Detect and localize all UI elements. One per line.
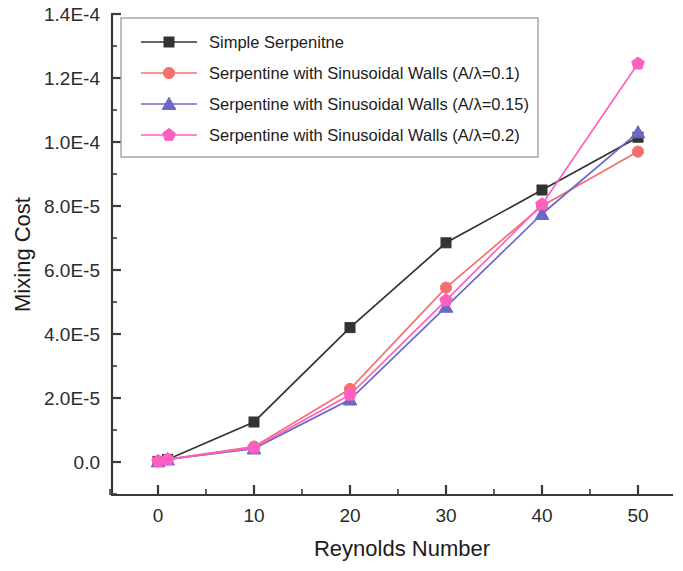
y-tick-label: 6.0E-5: [44, 260, 100, 281]
series-line: [158, 152, 638, 462]
marker-square: [249, 417, 259, 427]
marker-pentagon: [536, 198, 549, 210]
data-point: [441, 238, 451, 248]
marker-pentagon: [632, 57, 645, 69]
y-tick-label: 4.0E-5: [44, 324, 100, 345]
legend-label: Serpentine with Sinusoidal Walls (A/λ=0.…: [209, 64, 520, 82]
y-tick-label: 1.2E-4: [44, 68, 100, 89]
y-axis-title: Mixing Cost: [10, 197, 35, 312]
x-axis-title: Reynolds Number: [314, 536, 490, 561]
y-tick-label: 1.0E-4: [44, 132, 100, 153]
x-tick-label: 40: [531, 505, 552, 526]
legend-marker: [163, 67, 174, 78]
marker-square: [345, 323, 355, 333]
data-point: [249, 417, 259, 427]
series-1: [153, 132, 643, 466]
marker-square: [537, 185, 547, 195]
legend-label: Simple Serpenitne: [209, 33, 344, 51]
data-point: [632, 146, 643, 157]
series-line: [158, 137, 638, 461]
y-tick-label: 2.0E-5: [44, 388, 100, 409]
series-line: [158, 132, 638, 461]
x-tick-label: 30: [435, 505, 456, 526]
chart-canvas: 0.02.0E-54.0E-56.0E-58.0E-51.0E-41.2E-41…: [0, 0, 683, 571]
data-point: [632, 57, 645, 69]
mixing-cost-chart: 0.02.0E-54.0E-56.0E-58.0E-51.0E-41.2E-41…: [0, 0, 683, 571]
x-tick-label: 0: [153, 505, 164, 526]
marker-circle: [440, 282, 451, 293]
data-point: [345, 323, 355, 333]
x-tick-label: 20: [339, 505, 360, 526]
data-point: [536, 198, 549, 210]
marker-circle: [163, 67, 174, 78]
marker-square: [164, 37, 174, 47]
series-3: [151, 126, 645, 467]
y-tick-label: 8.0E-5: [44, 196, 100, 217]
series-2: [152, 146, 643, 467]
data-point: [440, 282, 451, 293]
y-tick-label: 0.0: [74, 452, 100, 473]
legend-marker: [164, 37, 174, 47]
marker-circle: [632, 146, 643, 157]
data-point: [537, 185, 547, 195]
x-tick-label: 50: [627, 505, 648, 526]
y-tick-label: 1.4E-4: [44, 4, 100, 25]
legend-label: Serpentine with Sinusoidal Walls (A/λ=0.…: [209, 126, 520, 144]
legend-label: Serpentine with Sinusoidal Walls (A/λ=0.…: [209, 95, 529, 113]
marker-square: [441, 238, 451, 248]
x-tick-label: 10: [243, 505, 264, 526]
